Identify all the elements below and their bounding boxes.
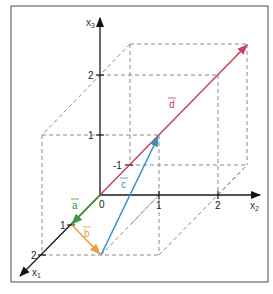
svg-text:b: b bbox=[84, 228, 90, 239]
x1-tick-neg1: -1 bbox=[113, 160, 122, 171]
svg-text:a: a bbox=[72, 200, 78, 211]
x2-tick-2: 2 bbox=[215, 200, 221, 211]
diagram-frame bbox=[11, 6, 268, 282]
svg-text:d: d bbox=[169, 99, 175, 110]
x3-tick-1: 1 bbox=[88, 130, 94, 141]
x1-tick-2: 2 bbox=[31, 250, 37, 261]
svg-text:c: c bbox=[121, 179, 126, 190]
x3-tick-2: 2 bbox=[88, 70, 94, 81]
vector-diagram: 1 2 1 2 1 2 -1 0 x3 x2 x1 a b c d bbox=[0, 0, 273, 294]
x2-tick-1: 1 bbox=[156, 200, 162, 211]
origin-label: 0 bbox=[99, 199, 105, 210]
x1-tick-1: 1 bbox=[60, 220, 66, 231]
